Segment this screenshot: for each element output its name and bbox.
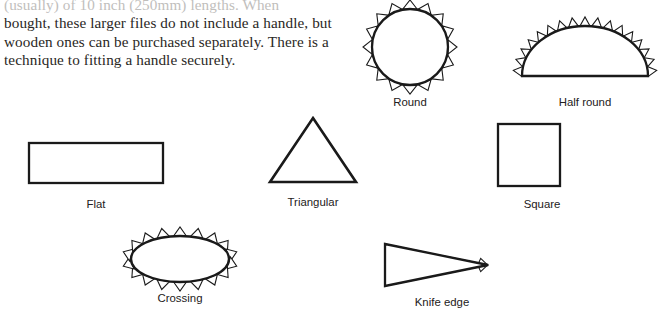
figure-triangular: Triangular xyxy=(252,110,374,209)
figure-caption: Flat xyxy=(12,198,180,211)
figure-flat: Flat xyxy=(12,128,180,211)
square-shape-icon xyxy=(482,116,602,196)
figure-round: Round xyxy=(344,2,476,109)
page-canvas: (usually) of 10 inch (250mm) lengths. Wh… xyxy=(0,0,662,317)
figure-caption: Square xyxy=(482,198,602,211)
half-round-shape-icon xyxy=(508,14,662,94)
knife-edge-shape-icon xyxy=(368,236,516,294)
figure-caption: Half round xyxy=(508,96,662,109)
paragraph-line-clipped: (usually) of 10 inch (250mm) lengths. Wh… xyxy=(4,0,334,14)
figure-square: Square xyxy=(482,116,602,211)
crossing-shape-icon xyxy=(114,228,246,290)
flat-shape-icon xyxy=(12,128,180,196)
paragraph-line: wooden ones can be purchased separately.… xyxy=(4,33,334,51)
figure-caption: Knife edge xyxy=(368,296,516,309)
round-shape-icon xyxy=(344,2,476,94)
figure-half-round: Half round xyxy=(508,14,662,109)
figure-crossing: Crossing xyxy=(114,228,246,305)
paragraph-line: bought, these larger files do not includ… xyxy=(4,14,334,32)
body-paragraph: (usually) of 10 inch (250mm) lengths. Wh… xyxy=(4,0,334,70)
paragraph-line: technique to fitting a handle securely. xyxy=(4,51,334,69)
figure-caption: Round xyxy=(344,96,476,109)
figure-caption: Crossing xyxy=(114,292,246,305)
triangular-shape-icon xyxy=(252,110,374,194)
figure-knife-edge: Knife edge xyxy=(368,236,516,309)
figure-caption: Triangular xyxy=(252,196,374,209)
